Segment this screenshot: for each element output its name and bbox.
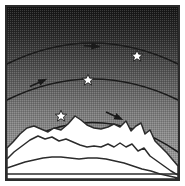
arrow-marker-1 <box>84 46 97 47</box>
figure-container <box>0 0 185 186</box>
illustration-canvas <box>0 0 185 186</box>
